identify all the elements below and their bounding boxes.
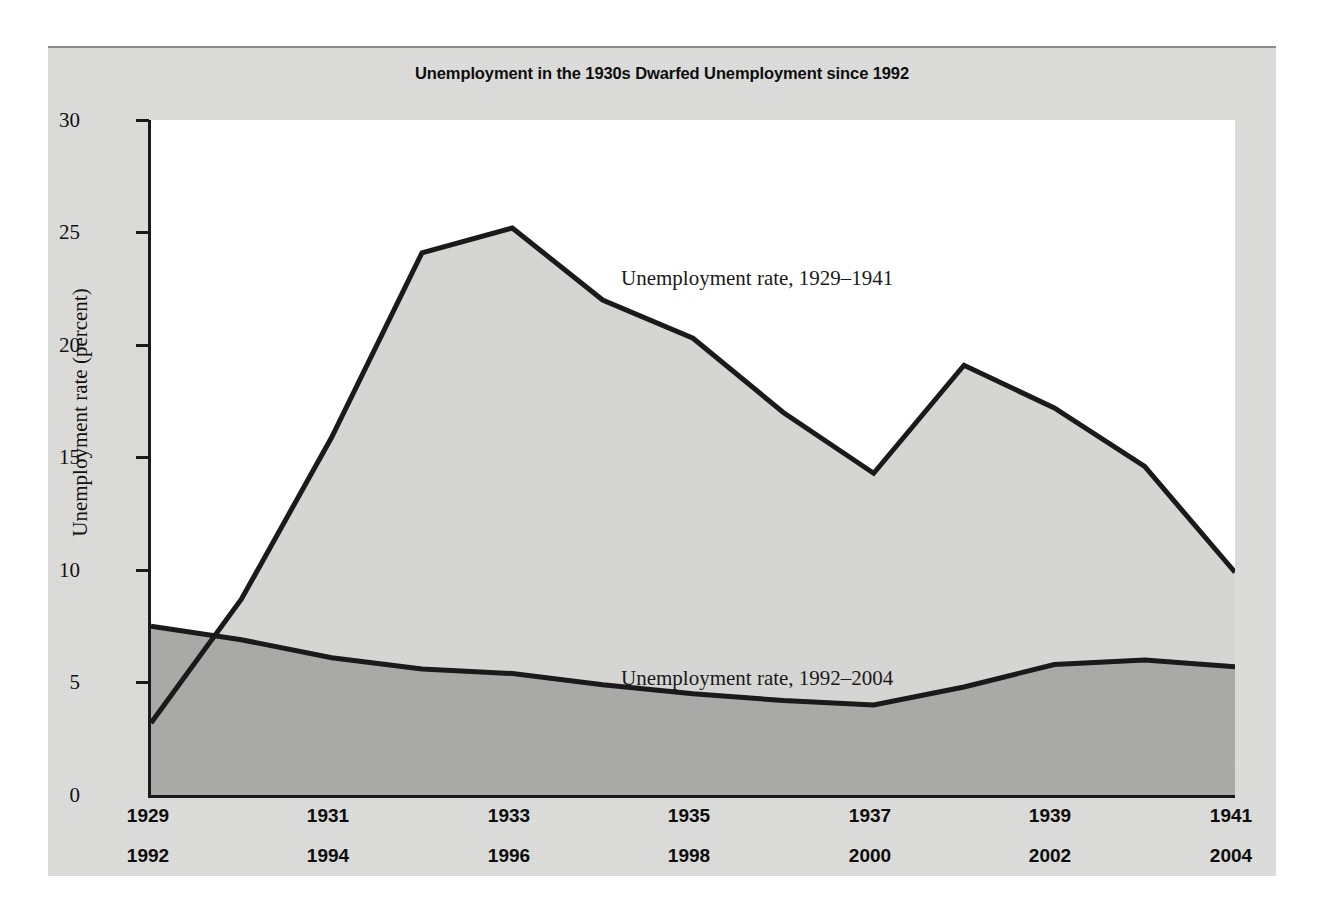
chart-canvas (151, 120, 1235, 795)
y-tick-label-10: 10 (20, 558, 80, 583)
x-tick-2002: 2002 (1005, 845, 1095, 867)
x-tick-1996: 1996 (464, 845, 554, 867)
plot-area: Unemployment rate, 1929–1941 Unemploymen… (148, 120, 1235, 798)
x-tick-1933: 1933 (464, 805, 554, 827)
x-tick-1935: 1935 (644, 805, 734, 827)
x-tick-2000: 2000 (825, 845, 915, 867)
y-tick-label-30: 30 (20, 108, 80, 133)
series-annotation-1992-2004: Unemployment rate, 1992–2004 (621, 666, 893, 691)
x-tick-1998: 1998 (644, 845, 734, 867)
figure-panel: Unemployment in the 1930s Dwarfed Unempl… (48, 46, 1276, 876)
x-tick-1992: 1992 (103, 845, 193, 867)
x-tick-1937: 1937 (825, 805, 915, 827)
y-tick-label-5: 5 (20, 670, 80, 695)
x-tick-1941: 1941 (1186, 805, 1276, 827)
x-tick-1994: 1994 (283, 845, 373, 867)
y-tick-label-20: 20 (20, 333, 80, 358)
y-tick-label-0: 0 (20, 783, 80, 808)
y-axis-label: Unemployment rate (percent) (68, 103, 93, 723)
x-tick-1931: 1931 (283, 805, 373, 827)
y-tick-label-25: 25 (20, 220, 80, 245)
y-tick-label-15: 15 (20, 445, 80, 470)
x-tick-2004: 2004 (1186, 845, 1276, 867)
x-tick-1939: 1939 (1005, 805, 1095, 827)
chart-page: Unemployment in the 1930s Dwarfed Unempl… (0, 0, 1329, 905)
series-annotation-1929-1941: Unemployment rate, 1929–1941 (621, 266, 893, 291)
chart-title: Unemployment in the 1930s Dwarfed Unempl… (48, 64, 1276, 83)
x-tick-1929: 1929 (103, 805, 193, 827)
